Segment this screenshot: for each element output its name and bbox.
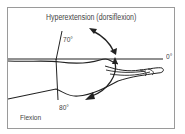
wrist-vertical-axis (56, 59, 58, 100)
flexion-arc-arrow (92, 62, 116, 96)
diagram-title: Hyperextension (dorsiflexion) (46, 13, 136, 22)
flexion-angle-label: 80° (59, 104, 69, 112)
hyperextension-angle-line (56, 31, 62, 60)
forearm-upper-contour (8, 59, 118, 64)
forearm-lower-contour (8, 81, 118, 99)
hyperextension-arc-arrow (93, 31, 114, 52)
neutral-angle-label: 0° (166, 53, 172, 61)
arrowhead-down-icon (110, 48, 117, 55)
arrowhead-flexion-start-icon (112, 57, 118, 64)
hand-outline (105, 66, 163, 81)
hyperextension-angle-label: 70° (63, 36, 73, 44)
flexion-label: Flexion (20, 114, 41, 122)
finger-lines (106, 69, 153, 76)
